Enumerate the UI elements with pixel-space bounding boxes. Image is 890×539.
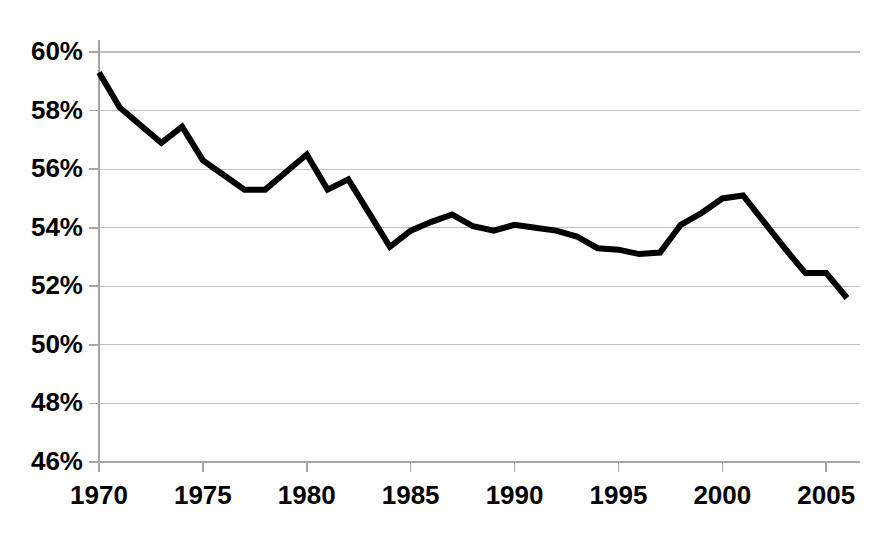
line-chart-plot [0,0,890,539]
x-tick-marks-group [99,462,826,472]
y-axis-tick-label: 54% [31,214,83,240]
y-axis-tick-label: 60% [31,38,83,64]
y-axis-tick-label: 46% [31,448,83,474]
x-axis-tick-label: 1980 [257,482,357,508]
y-axis-tick-label: 58% [31,97,83,123]
x-axis-tick-label: 1975 [153,482,253,508]
chart-container: 60%58%56%54%52%50%48%46% 197019751980198… [0,0,890,539]
gridlines-group [99,52,860,462]
data-series-group [99,73,847,299]
x-axis-tick-label: 1970 [49,482,149,508]
y-axis-tick-label: 56% [31,155,83,181]
x-axis-tick-label: 2005 [776,482,876,508]
data-line-series [99,73,847,299]
x-axis-tick-label: 1995 [568,482,668,508]
x-axis-tick-label: 2000 [672,482,772,508]
x-axis-tick-label: 1990 [465,482,565,508]
y-tick-marks-group [89,52,99,462]
axis-lines-group [99,40,860,462]
y-axis-tick-label: 50% [31,331,83,357]
y-axis-tick-label: 48% [31,389,83,415]
x-axis-tick-label: 1985 [361,482,461,508]
y-axis-tick-label: 52% [31,272,83,298]
